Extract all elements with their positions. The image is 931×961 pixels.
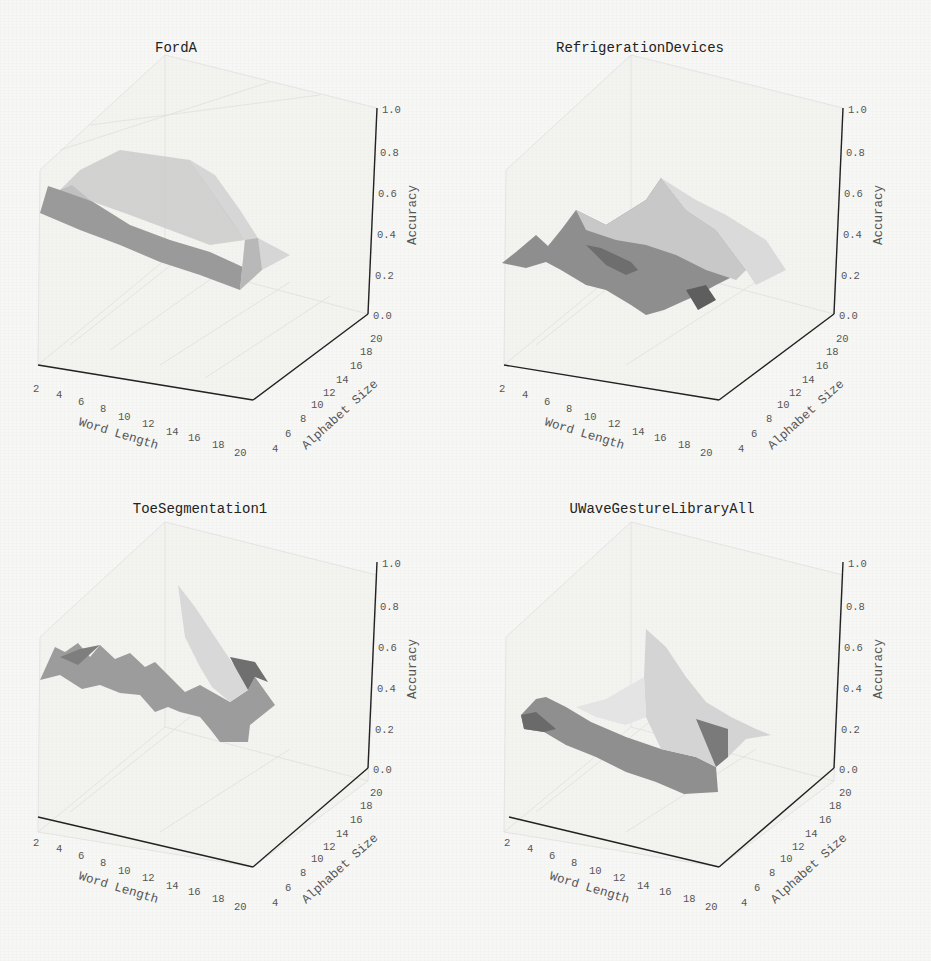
svg-text:16: 16 [188,886,201,898]
svg-text:20: 20 [234,901,247,913]
svg-text:0.0: 0.0 [839,764,858,776]
svg-text:8: 8 [571,857,577,869]
svg-text:14: 14 [336,374,349,386]
svg-text:1.0: 1.0 [848,104,867,116]
svg-text:8: 8 [100,857,106,869]
svg-text:20: 20 [839,787,852,799]
svg-text:2: 2 [33,383,39,395]
svg-text:12: 12 [323,841,336,853]
svg-text:10: 10 [589,865,602,877]
svg-text:12: 12 [323,387,336,399]
svg-text:6: 6 [285,882,291,894]
svg-text:8: 8 [766,413,772,425]
y-axis-label: Alphabet Size [765,377,847,453]
svg-text:4: 4 [522,389,528,401]
svg-text:12: 12 [792,841,805,853]
z-ticks: 1.0 0.8 0.6 0.4 0.2 0.0 [373,104,401,322]
svg-text:12: 12 [142,872,155,884]
chart-panel-toesegmentation1: ToeSegmentation1 1.0 0.8 0.6 0.4 0.2 0.0… [0,467,465,947]
svg-text:8: 8 [300,413,306,425]
svg-text:6: 6 [751,428,757,440]
svg-text:1.0: 1.0 [382,104,401,116]
z-axis-label: Accuracy [872,638,886,699]
z-ticks: 1.0 0.8 0.6 0.4 0.2 0.0 [373,558,401,776]
svg-text:16: 16 [819,814,832,826]
svg-text:14: 14 [637,880,650,892]
svg-text:18: 18 [360,800,373,812]
svg-text:14: 14 [802,374,815,386]
svg-text:10: 10 [777,399,790,411]
svg-text:2: 2 [499,383,505,395]
svg-text:4: 4 [56,389,62,401]
svg-text:14: 14 [805,828,818,840]
svg-text:16: 16 [350,360,363,372]
svg-text:14: 14 [166,880,179,892]
chart-title: ToeSegmentation1 [133,501,267,517]
svg-text:2: 2 [33,837,39,849]
svg-text:10: 10 [118,865,131,877]
svg-text:12: 12 [142,418,155,430]
svg-text:4: 4 [272,443,278,455]
svg-text:10: 10 [311,853,324,865]
svg-text:8: 8 [769,867,775,879]
svg-text:6: 6 [754,882,760,894]
svg-text:0.2: 0.2 [375,270,394,282]
svg-text:18: 18 [360,346,373,358]
svg-text:4: 4 [527,843,533,855]
svg-text:4: 4 [56,843,62,855]
svg-text:0.0: 0.0 [373,764,392,776]
svg-text:16: 16 [816,360,829,372]
svg-text:18: 18 [678,439,691,451]
svg-text:0.4: 0.4 [377,229,396,241]
svg-text:0.8: 0.8 [380,147,399,159]
svg-text:20: 20 [234,447,247,459]
svg-text:0.2: 0.2 [841,270,860,282]
svg-text:0.6: 0.6 [844,642,863,654]
svg-text:0.0: 0.0 [839,310,858,322]
svg-text:6: 6 [78,850,84,862]
svg-text:14: 14 [632,426,645,438]
svg-text:6: 6 [78,396,84,408]
svg-text:8: 8 [300,867,306,879]
z-ticks: 1.0 0.8 0.6 0.4 0.2 0.0 [839,558,867,776]
svg-text:0.4: 0.4 [377,683,396,695]
svg-text:0.8: 0.8 [846,147,865,159]
svg-text:18: 18 [829,800,842,812]
y-axis-label: Alphabet Size [299,831,381,907]
svg-text:10: 10 [584,411,597,423]
svg-text:0.8: 0.8 [846,601,865,613]
surface-plot: FordA 1.0 0.8 0.6 0.4 0.2 [0,0,465,480]
svg-text:6: 6 [549,850,555,862]
chart-panel-refrigerationdevices: RefrigerationDevices 1.0 0.8 0.6 0.4 0.2… [466,0,931,480]
svg-text:0.4: 0.4 [843,229,862,241]
svg-text:20: 20 [370,333,383,345]
svg-text:0.8: 0.8 [380,601,399,613]
svg-text:18: 18 [212,893,225,905]
svg-text:10: 10 [118,411,131,423]
svg-text:12: 12 [608,418,621,430]
svg-text:6: 6 [285,428,291,440]
z-axis-label: Accuracy [872,184,886,245]
svg-text:0.4: 0.4 [843,683,862,695]
z-ticks: 1.0 0.8 0.6 0.4 0.2 0.0 [839,104,867,322]
y-axis-label: Alphabet Size [768,831,850,907]
svg-text:8: 8 [566,403,572,415]
svg-text:4: 4 [272,897,278,909]
chart-title: UWaveGestureLibraryAll [570,501,755,517]
svg-text:14: 14 [166,426,179,438]
svg-text:10: 10 [780,853,793,865]
y-axis-label: Alphabet Size [299,377,381,453]
svg-text:6: 6 [544,396,550,408]
svg-text:14: 14 [336,828,349,840]
svg-text:20: 20 [370,787,383,799]
surface-plot: UWaveGestureLibraryAll 1.0 0.8 0.6 0.4 0… [466,467,931,947]
z-axis-label: Accuracy [406,638,420,699]
svg-text:16: 16 [350,814,363,826]
svg-text:4: 4 [741,897,747,909]
svg-text:0.6: 0.6 [844,188,863,200]
svg-text:12: 12 [613,872,626,884]
svg-text:10: 10 [311,399,324,411]
svg-text:2: 2 [504,837,510,849]
svg-text:18: 18 [826,346,839,358]
chart-title: FordA [155,40,198,56]
